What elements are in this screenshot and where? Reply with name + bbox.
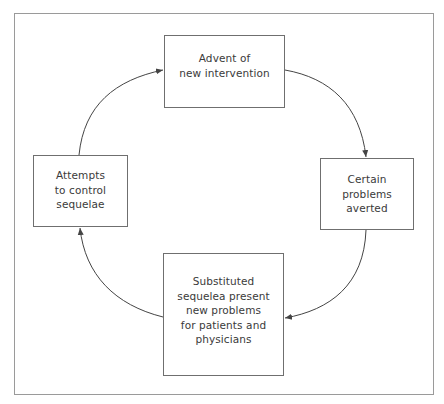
node-label: Certain problems averted [342, 172, 392, 216]
arrow-right-to-bottom [285, 230, 366, 318]
node-advent-of-new-intervention: Advent of new intervention [164, 35, 285, 108]
arrow-bottom-to-left [80, 228, 163, 317]
node-label: Attempts to control sequelae [55, 168, 106, 214]
node-certain-problems-averted: Certain problems averted [320, 158, 414, 230]
node-substituted-sequelae: Substituted sequelea present new problem… [163, 253, 284, 376]
node-label: Substituted sequelea present new problem… [177, 274, 269, 355]
node-label: Advent of new intervention [179, 51, 270, 92]
arrow-left-to-top [79, 70, 163, 155]
arrow-top-to-right [285, 70, 366, 157]
node-attempts-to-control-sequelae: Attempts to control sequelae [33, 155, 128, 227]
